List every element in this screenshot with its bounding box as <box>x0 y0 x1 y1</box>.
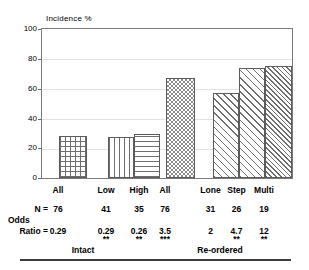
x-label-intact-all: All <box>38 186 78 195</box>
plot-area <box>41 28 293 179</box>
bar-intact-high <box>134 134 160 178</box>
n-value-reordered-multi: 19 <box>244 205 284 214</box>
n-value-reordered-all: 76 <box>145 205 185 214</box>
bar-intact-all <box>59 136 87 178</box>
y-tick-label-80: 80 <box>11 55 37 63</box>
group-label-reordered: Re-ordered <box>175 246 265 255</box>
odds-value-intact-all: 0.29 <box>38 227 78 236</box>
y-tick-label-100: 100 <box>11 25 37 33</box>
x-label-reordered-all: All <box>145 186 185 195</box>
chart-figure: Incidence % 100 80 60 40 20 0 All Low Hi… <box>0 0 309 270</box>
bar-reordered-multi <box>265 66 292 178</box>
significance-reordered-multi: ** <box>244 235 284 244</box>
bar-reordered-lone <box>213 93 239 178</box>
significance-reordered-all: *** <box>145 235 185 244</box>
y-tick-label-20: 20 <box>11 144 37 152</box>
bar-intact-low <box>108 137 134 178</box>
y-tick-label-60: 60 <box>11 85 37 93</box>
bar-reordered-step <box>239 68 265 178</box>
bar-reordered-all <box>166 78 195 178</box>
gridline-80 <box>42 59 292 60</box>
x-label-reordered-multi: Multi <box>244 186 284 195</box>
group-label-intact: Intact <box>48 246 118 255</box>
odds-label-line1: Odds <box>8 216 48 225</box>
bottom-divider <box>20 259 291 261</box>
y-tick-label-0: 0 <box>11 174 37 182</box>
y-tick-label-40: 40 <box>11 115 37 123</box>
y-axis-title: Incidence % <box>46 14 92 23</box>
n-value-intact-all: 76 <box>38 205 78 214</box>
